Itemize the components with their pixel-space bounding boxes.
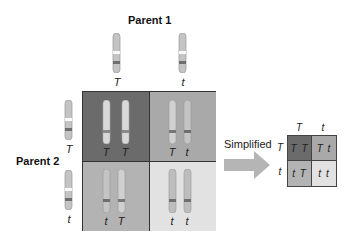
- parent-1-chromosome-T: [112, 33, 121, 73]
- chromosome-icon: [168, 169, 177, 213]
- parent-1-chromosome-t: [178, 33, 187, 73]
- cell-allele: t: [165, 215, 179, 227]
- simplified-col-header-t: t: [316, 122, 330, 133]
- simplified-label: Simplified: [224, 138, 272, 150]
- parent-2-chromosome-t: [64, 170, 73, 210]
- cell-allele: T: [99, 146, 113, 158]
- simplified-row-header-t: t: [273, 166, 287, 177]
- parent-1-label: Parent 1: [128, 14, 171, 26]
- chromosome-icon: [121, 100, 130, 144]
- chromosome-icon: [117, 169, 126, 213]
- simplified-cell-Tt: T t: [312, 136, 336, 161]
- chromosome-icon: [102, 169, 111, 213]
- arrow-right-icon: [224, 150, 272, 180]
- chromosome-icon: [168, 100, 177, 144]
- cell-allele: t: [99, 215, 113, 227]
- chromosome-icon: [102, 100, 111, 144]
- parent-1-allele-t: t: [176, 76, 190, 88]
- simplified-col-header-T: T: [292, 122, 306, 133]
- punnett-cell-tt: t t: [150, 162, 216, 231]
- punnett-cell-Tt: T t: [150, 92, 216, 162]
- simplified-cell-tt: t t: [312, 161, 336, 186]
- punnett-cell-TT: T T: [83, 92, 150, 162]
- cell-allele: T: [114, 215, 128, 227]
- cell-allele: t: [180, 146, 194, 158]
- cell-allele: T: [165, 146, 179, 158]
- cell-allele: T: [118, 146, 132, 158]
- parent-1-allele-T: T: [110, 76, 124, 88]
- parent-2-chromosome-T: [64, 100, 73, 140]
- simplified-cell-TT: T T: [288, 136, 312, 161]
- chromosome-icon: [183, 169, 192, 213]
- cell-allele: t: [180, 215, 194, 227]
- simplified-row-header-T: T: [273, 142, 287, 153]
- punnett-cell-tT: t T: [83, 162, 150, 231]
- simplified-punnett-square: T T T t t T t t: [287, 135, 337, 187]
- punnett-square: T T T t t T: [82, 91, 216, 231]
- simplified-cell-tT: t T: [288, 161, 312, 186]
- parent-2-allele-T: T: [62, 143, 76, 155]
- chromosome-icon: [183, 100, 192, 144]
- parent-2-allele-t: t: [62, 213, 76, 225]
- parent-2-label: Parent 2: [16, 155, 59, 167]
